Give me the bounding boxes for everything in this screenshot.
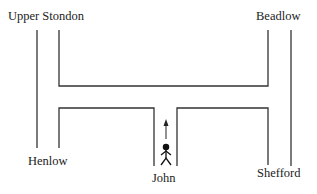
- road-lower-left: [59, 108, 154, 166]
- road-lower-right: [177, 108, 268, 166]
- label-henlow: Henlow: [28, 155, 68, 168]
- person-icon: [161, 144, 171, 165]
- road-top-inner: [59, 30, 268, 86]
- arrow-up-icon: [164, 119, 169, 139]
- label-beadlow: Beadlow: [256, 10, 300, 23]
- label-upper-stondon: Upper Stondon: [8, 10, 84, 23]
- label-shefford: Shefford: [257, 167, 301, 180]
- label-john: John: [152, 172, 176, 185]
